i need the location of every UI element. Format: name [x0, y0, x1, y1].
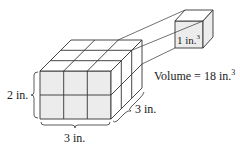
volume-label: Volume = 18 in.3 [154, 68, 235, 83]
diagram-svg: 2 in. 3 in. 3 in. 1 in.3 Volume = 18 in.… [0, 0, 240, 148]
height-label: 2 in. [7, 88, 28, 102]
volume-diagram: 2 in. 3 in. 3 in. 1 in.3 Volume = 18 in.… [0, 0, 240, 148]
width-label: 3 in. [64, 131, 85, 145]
large-prism [40, 40, 142, 119]
depth-label: 3 in. [135, 102, 156, 116]
